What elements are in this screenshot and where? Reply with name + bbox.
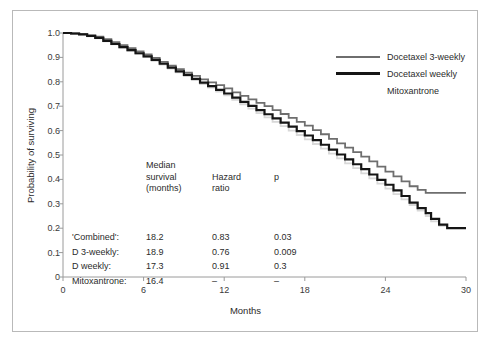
stats-header-p: p [274, 160, 324, 196]
stats-row-median: 18.2 [146, 232, 212, 247]
stats-header-row: Median survival (months) Hazard ratio p [72, 160, 324, 196]
y-tick-label: 0.2 [32, 223, 60, 233]
median-header-line3: (months) [146, 183, 212, 195]
stats-row-label: D 3-weekly: [72, 247, 146, 262]
stats-table-body: 'Combined':18.20.830.03D 3-weekly:18.90.… [72, 232, 324, 290]
legend-swatch-icon [336, 72, 380, 75]
median-header-line1: Median [146, 160, 212, 172]
legend-swatch-icon [336, 56, 380, 58]
y-tick-label: 0.1 [32, 248, 60, 258]
y-tick-label: 0 [32, 272, 60, 282]
y-tick-label: 0.5 [32, 150, 60, 160]
x-axis-label: Months [0, 305, 491, 316]
legend: Docetaxel 3-weeklyDocetaxel weeklyMitoxa… [336, 48, 465, 99]
stats-row-label: Mitoxantrone: [72, 276, 146, 291]
legend-item: Mitoxantrone [336, 82, 465, 99]
legend-item: Docetaxel weekly [336, 65, 465, 82]
stats-header-hazard: Hazard ratio [212, 160, 274, 196]
stats-header-median: Median survival (months) [146, 160, 212, 196]
legend-label: Docetaxel 3-weekly [387, 52, 465, 62]
y-tick-label: 0.7 [32, 101, 60, 111]
stats-row-hazard: 0.76 [212, 247, 274, 262]
survival-curve-figure: Probability of surviving 1.00.90.80.70.6… [0, 0, 491, 343]
x-tick-label: 24 [370, 285, 400, 295]
stats-row-median: 16.4 [146, 276, 212, 291]
y-tick-label: 1.0 [32, 28, 60, 38]
stats-gap-row [72, 196, 324, 232]
y-tick-label: 0.6 [32, 126, 60, 136]
x-tick-label: 30 [451, 285, 481, 295]
hazard-header-line2: ratio [212, 183, 274, 195]
stats-row-hazard: 0.91 [212, 261, 274, 276]
stats-row-hazard: 0.83 [212, 232, 274, 247]
y-tick-label: 0.8 [32, 77, 60, 87]
stats-row-p: 0.009 [274, 247, 324, 262]
stats-header-label [72, 160, 146, 196]
y-tick-label: 0.4 [32, 174, 60, 184]
stats-row-label: D weekly: [72, 261, 146, 276]
stats-gap-cell [72, 196, 324, 232]
stats-row-median: 17.3 [146, 261, 212, 276]
stats-row: Mitoxantrone:16.4–– [72, 276, 324, 291]
legend-label: Docetaxel weekly [387, 69, 457, 79]
stats-row-label: 'Combined': [72, 232, 146, 247]
stats-row-median: 18.9 [146, 247, 212, 262]
stats-row-hazard: – [212, 276, 274, 291]
legend-item: Docetaxel 3-weekly [336, 48, 465, 65]
median-header-line2: survival [146, 172, 212, 184]
stats-row-p: 0.03 [274, 232, 324, 247]
stats-row: D 3-weekly:18.90.760.009 [72, 247, 324, 262]
legend-label: Mitoxantrone [387, 86, 439, 96]
hazard-header-line1: Hazard [212, 172, 274, 184]
statistics-table: Median survival (months) Hazard ratio p [72, 160, 324, 290]
stats-row: D weekly:17.30.910.3 [72, 261, 324, 276]
stats-row: 'Combined':18.20.830.03 [72, 232, 324, 247]
stats-row-p: – [274, 276, 324, 291]
stats-row-p: 0.3 [274, 261, 324, 276]
y-tick-label: 0.9 [32, 52, 60, 62]
stats-table: Median survival (months) Hazard ratio p [72, 160, 324, 290]
stats-table-head: Median survival (months) Hazard ratio p [72, 160, 324, 232]
y-tick-label: 0.3 [32, 199, 60, 209]
p-header-line1: p [274, 172, 324, 184]
